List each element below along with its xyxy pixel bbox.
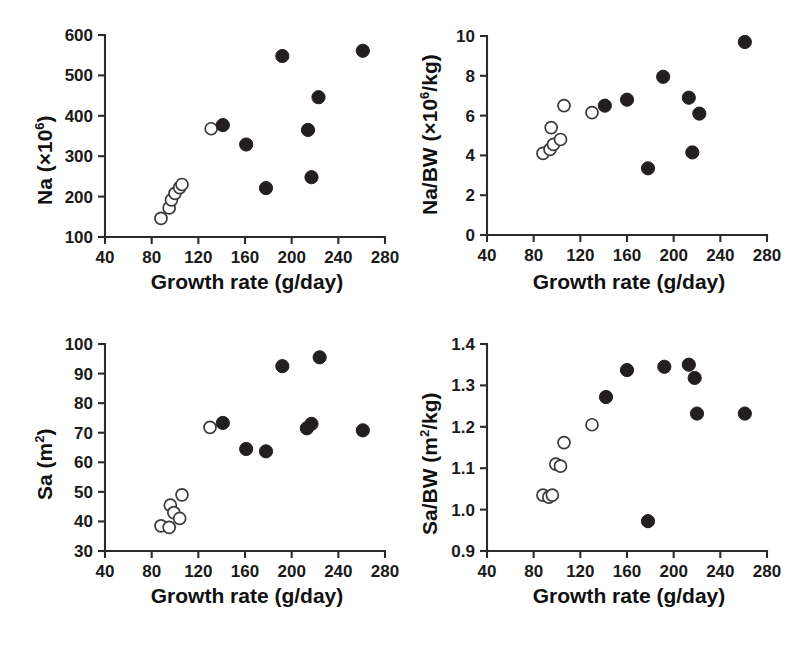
data-point-open bbox=[546, 489, 558, 501]
y-axis-title-suffix: /kg) bbox=[418, 392, 441, 429]
data-point-open bbox=[555, 460, 567, 472]
y-tick-label: 1.1 bbox=[0, 460, 475, 477]
data-point-filled bbox=[688, 371, 701, 384]
x-tick-label: 40 bbox=[478, 563, 497, 580]
x-axis-title: Growth rate (g/day) bbox=[533, 584, 726, 608]
y-tick-label: 1.0 bbox=[0, 501, 475, 518]
data-point-filled bbox=[658, 360, 671, 373]
y-tick-label: 0.9 bbox=[0, 543, 475, 560]
x-tick-label: 200 bbox=[659, 563, 687, 580]
data-point-filled bbox=[738, 407, 751, 420]
y-axis-title-exponent: 2 bbox=[417, 430, 432, 437]
y-tick-label: 1.4 bbox=[0, 336, 475, 353]
data-point-filled bbox=[690, 407, 703, 420]
x-tick-label: 80 bbox=[524, 563, 543, 580]
x-tick-label: 120 bbox=[566, 563, 594, 580]
data-point-open bbox=[586, 419, 598, 431]
data-point-filled bbox=[682, 358, 695, 371]
data-point-filled bbox=[641, 515, 654, 528]
data-point-filled bbox=[599, 390, 612, 403]
x-tick-label: 280 bbox=[753, 563, 781, 580]
y-axis-title: Sa/BW (m2/kg) bbox=[418, 392, 442, 535]
y-tick-label: 1.3 bbox=[0, 377, 475, 394]
data-point-open bbox=[558, 437, 570, 449]
x-tick-label: 160 bbox=[613, 563, 641, 580]
y-axis-title-main: Sa/BW (m bbox=[418, 437, 441, 535]
data-point-filled bbox=[620, 363, 633, 376]
figure-root: 1002003004005006004080120160200240280Gro… bbox=[0, 0, 791, 651]
x-tick-label: 240 bbox=[706, 563, 734, 580]
y-tick-label: 1.2 bbox=[0, 418, 475, 435]
